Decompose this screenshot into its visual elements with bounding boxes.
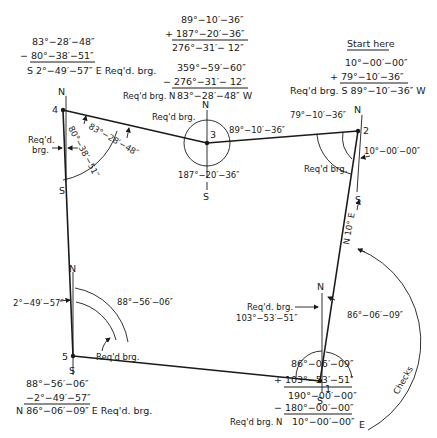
svg-text:Req'd brg. N: Req'd brg. N	[123, 91, 175, 101]
svg-text:276°−31′− 12″: 276°−31′− 12″	[172, 42, 244, 53]
svg-text:Req'd brg. N: Req'd brg. N	[230, 417, 282, 427]
angle-label-3-south: 187°−20′−36″	[178, 170, 239, 180]
svg-text:89°−10′−36″: 89°−10′−36″	[181, 14, 244, 25]
north-label: N	[354, 104, 361, 115]
reqd-brg-label: Req'd brg.	[96, 352, 139, 362]
leg-5-4	[63, 110, 73, 356]
checks-arc	[358, 249, 421, 430]
computation-result: Req'd brg. S 89°−10′−36″ W	[290, 85, 426, 96]
station-3-point	[205, 141, 209, 145]
svg-text:83°−28′−48″: 83°−28′−48″	[32, 36, 95, 47]
svg-text:+ 187°−20′−36″: + 187°−20′−36″	[165, 28, 245, 39]
station-4: N 4 S Req'd. brg. 80°−38′−51″ 83°−28′−48…	[28, 86, 141, 196]
svg-text:+ 103°−53′−51″: + 103°−53′−51″	[274, 374, 354, 385]
north-label: N	[317, 281, 324, 292]
angle-label-3-east: 89°−10′−36″	[229, 125, 285, 135]
south-label: S	[59, 185, 65, 196]
station-2-label: 2	[363, 125, 369, 136]
computation-result: S 2°−49′−57″ E Req'd. brg.	[27, 65, 156, 76]
station-2-point	[356, 129, 360, 133]
south-label: S	[203, 191, 209, 202]
north-label: N	[58, 86, 65, 97]
bearing-angle-2: 10°−00′−00″	[364, 146, 420, 156]
interior-angle-1: 103°−53′−51″	[236, 313, 297, 323]
station-5-label: 5	[62, 351, 68, 362]
svg-text:359°−59′−60″: 359°−59′−60″	[177, 62, 246, 73]
computation-result: N 86°−06′−09″ E Req'd. brg.	[16, 405, 152, 416]
svg-text:E: E	[359, 419, 365, 430]
svg-text:190°−00′−00″: 190°−00′−00″	[288, 390, 357, 401]
leg-bearing-label: N 10° E	[341, 212, 356, 245]
svg-text:88°−56′−06″: 88°−56′−06″	[26, 378, 89, 389]
station-4-point	[61, 108, 65, 112]
svg-text:− 180°−00′−00″: − 180°−00′−00″	[274, 402, 354, 413]
station-3: N 3 S Req'd brg. 89°−10′−36″ 187°−20′−36…	[152, 99, 285, 202]
interior-angle-5: 88°−56′−06″	[117, 297, 173, 307]
computation-result: 10°−00′−00″	[292, 416, 355, 427]
station-4-label: 4	[52, 104, 58, 115]
computation-bottom-right: 86°−06′−09″ + 103°−53′−51″ + 103°−53′−51…	[230, 358, 365, 430]
reqd-label: brg.	[32, 145, 49, 155]
meridian-2	[357, 115, 362, 192]
interior-angle-2: 79°−10′−36″	[290, 110, 346, 120]
svg-text:− 276°−31′− 12″: − 276°−31′− 12″	[163, 76, 246, 87]
station-5: N 5 S 2°−49′−57″ 88°−56′−06″ Req'd brg.	[13, 263, 173, 376]
reqd-label: Req'd.	[28, 135, 55, 145]
station-3-label: 3	[210, 129, 216, 140]
start-here-label: Start here	[347, 38, 395, 49]
east-angle-1: 86°−06′−09″	[347, 310, 403, 320]
reqd-brg-label: Req'd brg.	[304, 164, 347, 174]
svg-text:86°−06′−09″: 86°−06′−09″	[291, 358, 354, 369]
reqd-brg-label: Req'd. brg.	[247, 302, 293, 312]
bearing-angle-5: 2°−49′−57″	[13, 298, 64, 308]
traverse-diagram: N 4 S Req'd. brg. 80°−38′−51″ 83°−28′−48…	[0, 0, 437, 438]
checks-label: Checks	[391, 364, 415, 396]
south-label: S	[69, 365, 75, 376]
svg-text:+ 79°−10′−36″: + 79°−10′−36″	[330, 71, 404, 82]
svg-text:−2°−49′−57″: −2°−49′−57″	[26, 392, 91, 403]
computation-bottom-left: 88°−56′−06″ −2°−49′−57″ N 86°−06′−09″ E …	[16, 378, 152, 416]
reqd-brg-label: Req'd brg.	[152, 112, 195, 122]
svg-text:10°−00′−00″: 10°−00′−00″	[345, 57, 408, 68]
computation-top-center: 89°−10′−36″ + 187°−20′−36″ 276°−31′− 12″…	[123, 14, 253, 101]
computation-top-left: 83°−28′−48″ − 80°−38′−51″ S 2°−49′−57″ E…	[20, 36, 156, 76]
north-label: N	[69, 263, 76, 274]
computation-top-right: Start here 10°−00′−00″ + 79°−10′−36″ Req…	[290, 38, 426, 96]
svg-text:− 80°−38′−51″: − 80°−38′−51″	[20, 50, 94, 61]
station-5-point	[71, 354, 75, 358]
computation-result: 83°−28′−48″ W	[177, 90, 253, 101]
